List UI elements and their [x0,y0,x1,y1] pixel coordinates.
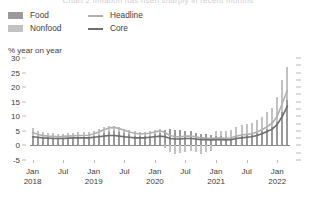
right-axis-tick-mark [296,138,301,139]
line-series-group [30,58,290,160]
y-axis: 302520151050-5 [0,52,28,164]
x-axis-tick-label: Jan2022 [268,167,286,186]
legend-column-lines: Headline Core [88,10,143,36]
x-axis-tick-label: Jul [119,167,129,177]
legend-item-headline: Headline [88,10,143,21]
x-axis-tick-label: Jan2020 [146,167,164,186]
x-axis-tick-mark [124,160,125,163]
y-axis-tick-label: 20 [11,83,20,92]
right-axis-tick-mark [296,87,301,88]
y-axis-tick-mark [22,87,26,88]
y-axis-tick-mark [22,130,26,131]
legend-item-core: Core [88,23,143,34]
x-axis-tick-mark [185,160,186,163]
y-axis-tick-label: 5 [16,126,20,135]
x-axis-tick-mark [33,160,34,163]
right-axis-tick-mark [296,145,301,146]
y-axis-tick-mark [22,101,26,102]
x-axis-tick-mark [277,160,278,163]
legend-label-nonfood: Nonfood [30,23,61,34]
line-swatch-icon [88,15,103,17]
x-axis-tick-mark [63,160,64,163]
x-axis-tick-label: Jul [58,167,68,177]
y-axis-tick-label: 15 [11,97,20,106]
x-axis-tick-label: Jan2018 [24,167,42,186]
right-axis-tick-mark [296,109,301,110]
legend-item-nonfood: Nonfood [8,23,61,34]
right-axis-tick-mark [296,152,301,153]
right-axis-tick-mark [296,130,301,131]
line-swatch-icon [88,28,103,30]
right-axis-tick-mark [296,101,301,102]
x-axis-tick-mark [94,160,95,163]
legend-label-food: Food [30,10,49,21]
y-axis-tick-mark [22,58,26,59]
y-axis-tick-label: 30 [11,54,20,63]
chart-container: Chart 2 Inflation has risen sharply in r… [0,0,316,202]
x-axis-tick-mark [155,160,156,163]
y-axis-tick-mark [22,160,26,161]
line-headline [33,90,288,138]
x-axis-tick-mark [216,160,217,163]
x-axis-tick-mark [247,160,248,163]
legend-label-headline: Headline [110,10,143,21]
x-axis-tick-label: Jul [242,167,252,177]
x-axis-tick-label: Jul [180,167,190,177]
right-axis-tick-mark [296,160,301,161]
right-axis-tick-mark [296,123,301,124]
y-axis-tick-mark [22,72,26,73]
legend-item-food: Food [8,10,61,21]
x-axis: Jan2018JulJan2019JulJan2020JulJan2021Jul… [0,163,316,189]
right-axis-tick-mark [296,72,301,73]
right-axis-tick-mark [296,94,301,95]
chart-title-cutoff: Chart 2 Inflation has risen sharply in r… [0,0,316,5]
y-axis-tick-label: 25 [11,68,20,77]
square-swatch-icon [8,25,23,32]
right-axis-tick-mark [296,116,301,117]
x-axis-tick-label: Jan2021 [207,167,225,186]
y-axis-tick-label: 0 [16,141,20,150]
legend-label-core: Core [110,23,128,34]
y-axis-tick-mark [22,116,26,117]
legend-column-swatches: Food Nonfood [8,10,61,36]
y-axis-tick-label: 10 [11,112,20,121]
right-axis-tick-mark [296,79,301,80]
x-axis-tick-label: Jan2019 [85,167,103,186]
right-axis-tick-mark [296,65,301,66]
y-axis-tick-mark [22,145,26,146]
plot-area [30,58,290,160]
square-swatch-icon [8,12,23,19]
right-axis-tick-mark [296,58,301,59]
